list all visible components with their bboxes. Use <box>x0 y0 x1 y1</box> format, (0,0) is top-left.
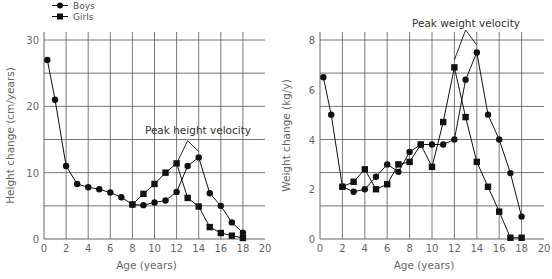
y-tick-label: 20 <box>26 101 39 112</box>
data-point-square <box>229 232 235 238</box>
y-tick-label: 0 <box>33 234 39 245</box>
data-point-circle <box>162 197 168 203</box>
data-point-square <box>451 64 457 70</box>
data-point-circle <box>229 219 235 225</box>
data-point-square <box>207 224 213 230</box>
data-point-square <box>474 159 480 165</box>
data-point-square <box>129 201 135 207</box>
data-point-circle <box>140 202 146 208</box>
data-point-circle <box>44 57 50 63</box>
y-tick-label: 2 <box>309 184 315 195</box>
data-point-circle <box>384 161 390 167</box>
data-point-circle <box>474 49 480 55</box>
data-point-square <box>140 191 146 197</box>
data-point-square <box>218 230 224 236</box>
x-tick-label: 6 <box>107 243 113 254</box>
x-tick-label: 16 <box>493 243 506 254</box>
data-point-square <box>507 235 513 241</box>
data-point-square <box>240 235 246 241</box>
x-tick-label: 10 <box>426 243 439 254</box>
x-tick-label: 20 <box>538 243 551 254</box>
x-tick-label: 2 <box>339 243 345 254</box>
data-point-circle <box>507 170 513 176</box>
x-tick-label: 8 <box>129 243 135 254</box>
x-tick-label: 0 <box>41 243 47 254</box>
x-tick-label: 14 <box>470 243 483 254</box>
annotation-label: Peak height velocity <box>145 124 251 136</box>
data-point-square <box>406 159 412 165</box>
data-point-circle <box>107 189 113 195</box>
data-point-circle <box>207 190 213 196</box>
data-point-circle <box>406 149 412 155</box>
data-point-square <box>462 114 468 120</box>
x-tick-label: 16 <box>214 243 227 254</box>
data-point-square <box>518 235 524 241</box>
y-axis-title: Height change (cm/years) <box>4 67 16 204</box>
x-tick-label: 20 <box>259 243 272 254</box>
x-tick-label: 2 <box>63 243 69 254</box>
data-point-square <box>395 161 401 167</box>
data-point-circle <box>118 194 124 200</box>
data-point-circle <box>96 186 102 192</box>
data-point-square <box>339 184 345 190</box>
x-tick-label: 4 <box>362 243 368 254</box>
weight-velocity-chart: 0246810121416182002468Age (years)Weight … <box>276 0 552 279</box>
x-axis-title: Age (years) <box>116 259 177 271</box>
series-boys <box>320 49 525 220</box>
x-tick-label: 18 <box>237 243 250 254</box>
data-point-square <box>373 186 379 192</box>
data-point-circle <box>440 141 446 147</box>
x-tick-label: 6 <box>384 243 390 254</box>
data-point-circle <box>184 163 190 169</box>
series-boys <box>44 57 246 236</box>
y-tick-label: 30 <box>26 35 39 46</box>
data-point-circle <box>496 136 502 142</box>
data-point-square <box>162 169 168 175</box>
x-tick-label: 14 <box>192 243 205 254</box>
figure: Boys Girls 024681012141618200102030Age (… <box>0 0 552 279</box>
data-point-circle <box>328 111 334 117</box>
x-tick-label: 18 <box>515 243 528 254</box>
data-point-circle <box>362 186 368 192</box>
data-point-circle <box>451 136 457 142</box>
data-point-square <box>384 181 390 187</box>
height-velocity-chart: 024681012141618200102030Age (years)Heigh… <box>0 0 276 279</box>
data-point-square <box>350 179 356 185</box>
x-tick-label: 12 <box>170 243 183 254</box>
data-point-circle <box>462 77 468 83</box>
annotation-pointer <box>454 30 476 60</box>
data-point-circle <box>485 111 491 117</box>
data-point-square <box>429 164 435 170</box>
data-point-circle <box>429 141 435 147</box>
data-point-square <box>184 195 190 201</box>
annotation-label: Peak weight velocity <box>412 17 520 29</box>
data-point-square <box>485 184 491 190</box>
data-point-circle <box>518 213 524 219</box>
y-tick-label: 8 <box>309 35 315 46</box>
x-tick-label: 4 <box>85 243 91 254</box>
y-tick-label: 6 <box>309 85 315 96</box>
data-point-circle <box>74 181 80 187</box>
y-tick-label: 10 <box>26 168 39 179</box>
data-point-circle <box>85 184 91 190</box>
data-point-circle <box>173 189 179 195</box>
grid <box>320 32 544 239</box>
y-tick-label: 0 <box>309 234 315 245</box>
y-tick-label: 4 <box>309 135 315 146</box>
x-axis-title: Age (years) <box>394 259 455 271</box>
data-point-square <box>151 181 157 187</box>
data-point-circle <box>350 189 356 195</box>
data-point-circle <box>395 169 401 175</box>
data-point-circle <box>373 174 379 180</box>
data-point-square <box>418 141 424 147</box>
data-point-square <box>496 208 502 214</box>
data-point-circle <box>151 199 157 205</box>
data-point-circle <box>196 154 202 160</box>
data-point-square <box>440 119 446 125</box>
data-point-square <box>362 166 368 172</box>
y-axis-title: Weight change (kg/y) <box>280 79 292 192</box>
x-tick-label: 8 <box>406 243 412 254</box>
x-tick-label: 10 <box>148 243 161 254</box>
data-point-circle <box>218 203 224 209</box>
x-tick-label: 12 <box>448 243 461 254</box>
